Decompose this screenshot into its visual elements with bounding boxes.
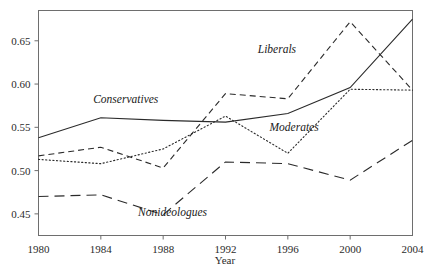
x-axis-title: Year	[215, 254, 236, 266]
x-tick-label: 1992	[215, 243, 237, 255]
series-label-liberals: Liberals	[257, 43, 297, 55]
x-tick-label: 1988	[152, 243, 175, 255]
chart-figure: 0.450.500.550.600.65 1980198419881992199…	[0, 0, 426, 272]
y-tick-label: 0.50	[11, 165, 31, 177]
series-label-nonideologues: Nonideologues	[137, 206, 208, 219]
series-label-moderates: Moderates	[268, 121, 319, 133]
chart-background	[0, 0, 426, 272]
x-tick-label: 1980	[28, 243, 51, 255]
x-tick-label: 1996	[277, 243, 300, 255]
y-tick-label: 0.65	[11, 35, 31, 47]
line-chart: 0.450.500.550.600.65 1980198419881992199…	[0, 0, 426, 272]
x-tick-label: 2000	[339, 243, 362, 255]
y-tick-label: 0.60	[11, 78, 31, 90]
y-tick-label: 0.45	[11, 208, 31, 220]
y-tick-label: 0.55	[11, 121, 31, 133]
x-tick-label: 2004	[402, 243, 425, 255]
x-tick-label: 1984	[90, 243, 113, 255]
series-label-conservatives: Conservatives	[93, 93, 159, 105]
